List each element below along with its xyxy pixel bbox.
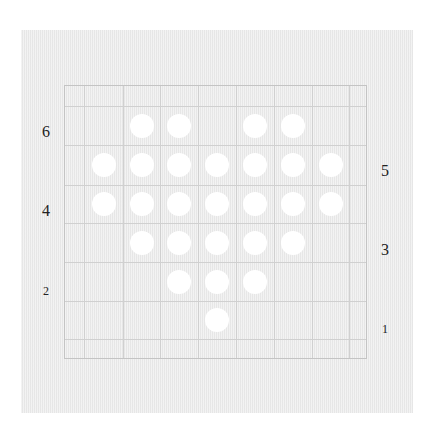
peg-r2-c4[interactable] bbox=[205, 153, 229, 177]
peg-r3-c4[interactable] bbox=[205, 192, 229, 216]
row-label-3: 3 bbox=[375, 242, 395, 258]
grid-line-vertical bbox=[123, 86, 124, 358]
peg-r4-c6[interactable] bbox=[281, 231, 305, 255]
peg-r2-c1[interactable] bbox=[92, 153, 116, 177]
row-label-1: 1 bbox=[375, 323, 395, 335]
grid-line-vertical bbox=[160, 86, 161, 358]
peg-r3-c7[interactable] bbox=[319, 192, 343, 216]
peg-r5-c3[interactable] bbox=[167, 270, 191, 294]
peg-r3-c6[interactable] bbox=[281, 192, 305, 216]
peg-r1-c6[interactable] bbox=[281, 114, 305, 138]
grid-line-vertical bbox=[349, 86, 350, 358]
grid-line-horizontal bbox=[65, 106, 366, 107]
peg-r5-c5[interactable] bbox=[243, 270, 267, 294]
peg-r1-c5[interactable] bbox=[243, 114, 267, 138]
peg-r2-c2[interactable] bbox=[130, 153, 154, 177]
row-label-4: 4 bbox=[36, 203, 56, 219]
peg-r6-c4[interactable] bbox=[205, 308, 229, 332]
peg-r3-c1[interactable] bbox=[92, 192, 116, 216]
grid-line-horizontal bbox=[65, 223, 366, 224]
row-label-5: 5 bbox=[375, 163, 395, 179]
grid-line-horizontal bbox=[65, 301, 366, 302]
peg-r2-c7[interactable] bbox=[319, 153, 343, 177]
row-label-6: 6 bbox=[36, 124, 56, 140]
grid-line-horizontal bbox=[65, 339, 366, 340]
peg-r5-c4[interactable] bbox=[205, 270, 229, 294]
grid-line-vertical bbox=[84, 86, 85, 358]
peg-r4-c5[interactable] bbox=[243, 231, 267, 255]
row-label-2: 2 bbox=[36, 285, 56, 297]
peg-r2-c3[interactable] bbox=[167, 153, 191, 177]
peg-r1-c2[interactable] bbox=[130, 114, 154, 138]
peg-board bbox=[64, 85, 367, 359]
peg-r3-c2[interactable] bbox=[130, 192, 154, 216]
grid-line-horizontal bbox=[65, 185, 366, 186]
peg-r1-c3[interactable] bbox=[167, 114, 191, 138]
peg-r2-c5[interactable] bbox=[243, 153, 267, 177]
grid-line-horizontal bbox=[65, 262, 366, 263]
grid-line-vertical bbox=[274, 86, 275, 358]
grid-line-horizontal bbox=[65, 145, 366, 146]
peg-r4-c2[interactable] bbox=[130, 231, 154, 255]
grid-line-vertical bbox=[236, 86, 237, 358]
grid-line-vertical bbox=[312, 86, 313, 358]
peg-r3-c5[interactable] bbox=[243, 192, 267, 216]
peg-r4-c3[interactable] bbox=[167, 231, 191, 255]
peg-r2-c6[interactable] bbox=[281, 153, 305, 177]
grid-line-vertical bbox=[198, 86, 199, 358]
peg-r4-c4[interactable] bbox=[205, 231, 229, 255]
peg-r3-c3[interactable] bbox=[167, 192, 191, 216]
